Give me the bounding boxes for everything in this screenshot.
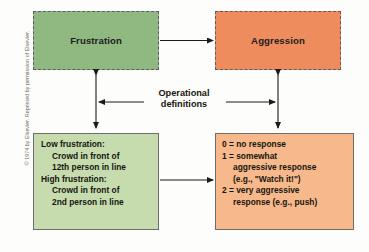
aggression-definition-line-1: 0 = no response — [222, 139, 317, 151]
frustration-box: Frustration — [33, 11, 159, 70]
aggression-definition-line-3: aggressive response — [222, 162, 317, 174]
aggression-definition-line-4: (e.g., "Watch it!") — [222, 174, 317, 186]
figure-canvas: © 1974 by Elsevier. Reprinted by permiss… — [0, 0, 369, 252]
frustration-definition-list: Low frustration:Crowd in front of12th pe… — [41, 139, 126, 208]
frustration-definition-line-6: 2nd person in line — [41, 197, 126, 209]
frustration-operational-definitions-box: Low frustration:Crowd in front of12th pe… — [33, 133, 159, 230]
operational-definitions-line1: Operational — [145, 88, 223, 99]
frustration-definition-line-3: 12th person in line — [41, 162, 126, 174]
aggression-operational-definitions-box: 0 = no response1 = somewhataggressive re… — [215, 133, 354, 230]
operational-definitions-line2: definitions — [145, 99, 223, 110]
aggression-definition-line-5: 2 = very aggressive — [222, 185, 317, 197]
aggression-box-label: Aggression — [251, 35, 305, 46]
frustration-definition-line-1: Low frustration: — [41, 139, 126, 151]
frustration-definition-line-5: Crowd in front of — [41, 185, 126, 197]
operational-definitions-label: Operational definitions — [145, 88, 223, 110]
aggression-definition-list: 0 = no response1 = somewhataggressive re… — [222, 139, 317, 208]
copyright-notice: © 1974 by Elsevier. Reprinted by permiss… — [24, 13, 30, 183]
aggression-box: Aggression — [215, 11, 341, 70]
frustration-definition-line-4: High frustration: — [41, 174, 126, 186]
aggression-definition-line-6: response (e.g., push) — [222, 197, 317, 209]
aggression-definition-line-2: 1 = somewhat — [222, 151, 317, 163]
frustration-box-label: Frustration — [70, 35, 122, 46]
frustration-definition-line-2: Crowd in front of — [41, 151, 126, 163]
